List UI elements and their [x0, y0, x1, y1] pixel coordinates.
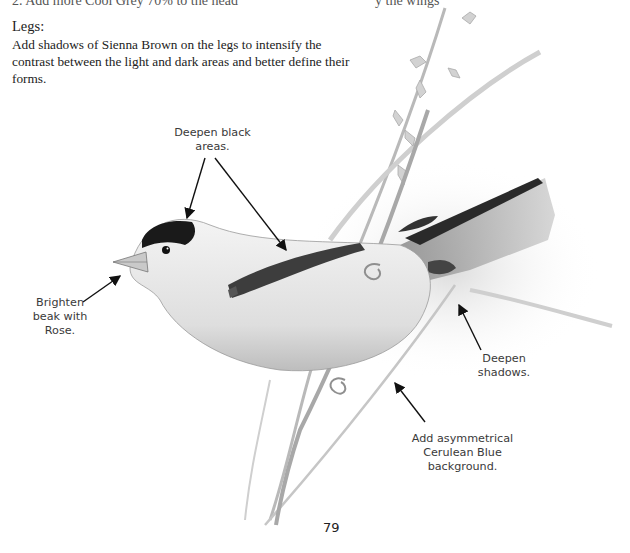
callout-line: background.: [405, 460, 520, 474]
callout-line: Deepen black: [150, 126, 275, 140]
callout-line: Cerulean Blue: [405, 446, 520, 460]
goldfinch-illustration: [0, 0, 630, 553]
callout-line: Brighten: [25, 296, 95, 310]
callout-line: Deepen: [470, 352, 538, 366]
callout-line: areas.: [150, 140, 275, 154]
callout-line: Add asymmetrical: [405, 432, 520, 446]
callout-deepen-black: Deepen black areas.: [150, 126, 275, 154]
callout-line: Rose.: [25, 324, 95, 338]
callout-line: shadows.: [470, 366, 538, 380]
callout-line: beak with: [25, 310, 95, 324]
callout-brighten-beak: Brighten beak with Rose.: [25, 296, 95, 338]
callout-cerulean-background: Add asymmetrical Cerulean Blue backgroun…: [405, 432, 520, 474]
callout-deepen-shadows: Deepen shadows.: [470, 352, 538, 380]
page-number: 79: [323, 520, 340, 535]
bird-eye: [162, 246, 170, 254]
